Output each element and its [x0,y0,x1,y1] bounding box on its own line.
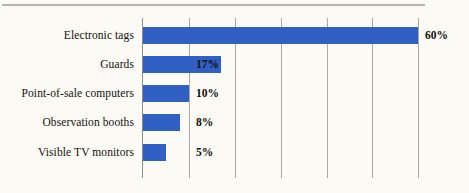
category-label: Guards [0,56,134,73]
plot-area: Electronic tags 60% Guards 17% Point-of-… [0,0,469,193]
bar-chart-figure: Electronic tags 60% Guards 17% Point-of-… [0,0,469,193]
bar-value-label: 8% [196,114,213,131]
bar [143,144,166,161]
bar-row-point-of-sale-computers: Point-of-sale computers 10% [0,85,469,114]
bar [143,114,180,131]
bar-row-observation-booths: Observation booths 8% [0,114,469,143]
bar-row-electronic-tags: Electronic tags 60% [0,27,469,56]
bar-row-guards: Guards 17% [0,56,469,85]
bar-row-visible-tv-monitors: Visible TV monitors 5% [0,144,469,173]
bar-value-label: 5% [196,144,213,161]
bar [143,27,418,44]
category-label: Electronic tags [0,27,134,44]
bar [143,85,189,102]
category-label: Point-of-sale computers [0,85,134,102]
category-label: Observation booths [0,114,134,131]
bar-value-label: 10% [196,85,219,102]
bar-value-label: 17% [196,56,219,73]
category-label: Visible TV monitors [0,144,134,161]
bar-value-label: 60% [425,27,448,44]
